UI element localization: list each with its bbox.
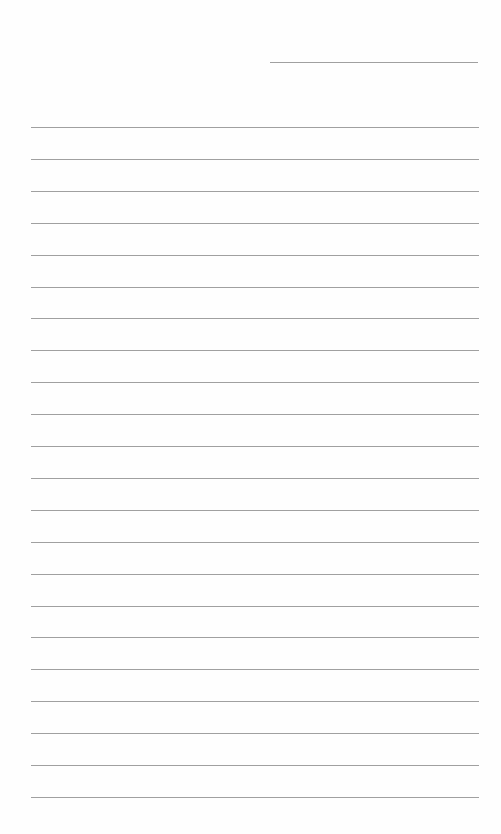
ruled-line [31, 542, 479, 543]
ruled-line [31, 255, 479, 256]
ruled-line [31, 765, 479, 766]
ruled-line [31, 159, 479, 160]
ruled-line [31, 669, 479, 670]
ruled-line [31, 510, 479, 511]
ruled-line [31, 446, 479, 447]
ruled-line [31, 350, 479, 351]
ruled-line [31, 127, 479, 128]
ruled-line [31, 637, 479, 638]
lined-paper-page [0, 0, 501, 834]
ruled-line [31, 287, 479, 288]
ruled-line [31, 701, 479, 702]
ruled-line [31, 223, 479, 224]
ruled-line [31, 797, 479, 798]
ruled-line [31, 382, 479, 383]
ruled-line [31, 733, 479, 734]
ruled-line [31, 606, 479, 607]
ruled-line [31, 574, 479, 575]
ruled-line [31, 318, 479, 319]
ruled-line [31, 414, 479, 415]
ruled-line [31, 191, 479, 192]
ruled-line [31, 478, 479, 479]
header-date-line [270, 62, 478, 63]
